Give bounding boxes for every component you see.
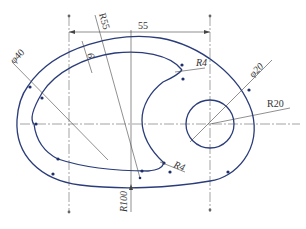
dim-r100-label: R100: [118, 191, 129, 213]
dim-r4-top-label: R4: [195, 57, 207, 68]
dimension-r4-top: R4: [175, 57, 207, 72]
dimension-r4-bottom: R4: [160, 158, 187, 173]
dimension-phi40: φ40: [8, 46, 108, 160]
dim-phi40-label: φ40: [8, 46, 27, 65]
dimension-r100: R100: [118, 30, 133, 213]
dim-phi20-label: φ20: [247, 61, 266, 80]
dimension-r20: R20: [210, 98, 290, 124]
outer-contour: [17, 37, 254, 188]
dim-r20-label: R20: [267, 98, 284, 109]
dim-r55-label: R55: [97, 12, 112, 31]
dim-r4-bottom-label: R4: [171, 158, 186, 173]
tangent-points: [28, 63, 250, 175]
dim-55-label: 55: [138, 20, 148, 31]
technical-drawing: 55 R55 6 φ40 R4 φ20 R20 R4 R100: [0, 0, 306, 229]
centerlines: [20, 15, 300, 214]
inner-slot-contour: [32, 52, 182, 171]
dimension-55: 55: [69, 20, 210, 34]
